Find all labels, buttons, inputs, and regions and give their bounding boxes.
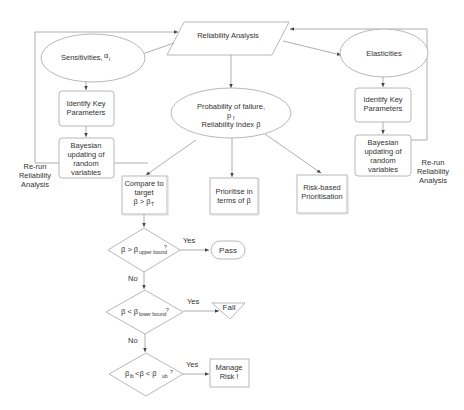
- svg-text:Risk !: Risk !: [220, 372, 239, 381]
- svg-text:Compare to: Compare to: [124, 179, 163, 188]
- probability-of-failure-node: Probability of failure, p f Reliability …: [171, 88, 291, 138]
- yes-label: Yes: [187, 297, 199, 306]
- svg-text:Pass: Pass: [219, 246, 237, 255]
- svg-text:Reliability: Reliability: [417, 167, 449, 176]
- svg-text:Analysis: Analysis: [419, 176, 447, 185]
- right-bayesian-updating: Bayesian updating of random variables: [355, 135, 411, 176]
- elasticities-node: Elasticities: [340, 29, 428, 77]
- svg-text:Identify Key: Identify Key: [363, 95, 402, 104]
- sensitivities-node: Sensitivities, α i: [41, 34, 145, 82]
- svg-text:Manage: Manage: [215, 363, 242, 372]
- bayes-line1: Bayesian: [71, 141, 102, 150]
- bayes-line4: variables: [71, 168, 101, 177]
- pass-terminal: Pass: [211, 241, 245, 259]
- svg-text:β < β: β < β: [121, 307, 139, 316]
- bayes-line3: random: [73, 159, 98, 168]
- svg-text:Probability of failure,: Probability of failure,: [197, 102, 265, 111]
- sensitivities-label: Sensitivities,: [61, 53, 103, 62]
- svg-text:Reliability Index β: Reliability Index β: [202, 120, 262, 129]
- compare-to-target-node: Compare to target β > β T: [122, 176, 168, 215]
- svg-text:?: ?: [170, 369, 173, 375]
- left-identify-key-parameters: Identify Key Parameters: [59, 91, 114, 126]
- svg-text:Fail: Fail: [223, 303, 236, 312]
- right-identify-key-parameters: Identify Key Parameters: [355, 88, 411, 122]
- svg-text:lower bound: lower bound: [139, 311, 166, 317]
- svg-text:Bayesian: Bayesian: [368, 138, 399, 147]
- svg-text:Analysis: Analysis: [21, 180, 49, 189]
- svg-text:lb: lb: [130, 373, 134, 379]
- svg-text:?: ?: [164, 244, 167, 250]
- svg-text:β > β: β > β: [133, 197, 151, 206]
- bayes-line2: updating of: [67, 150, 105, 159]
- svg-text:p: p: [227, 111, 231, 120]
- no-label: No: [128, 336, 138, 345]
- prioritise-node: Prioritise in terms of β: [210, 178, 259, 215]
- manage-risk-node: Manage Risk !: [210, 359, 249, 387]
- svg-text:Reliability: Reliability: [19, 171, 51, 180]
- no-label: No: [128, 274, 138, 283]
- decision-between-bounds: β lb <β < β ub ?: [109, 353, 183, 396]
- decision-upper-bound: β > β upper bound ?: [108, 228, 180, 272]
- alpha-subscript: i: [109, 56, 110, 62]
- elasticities-label: Elasticities: [366, 49, 402, 58]
- yes-label: Yes: [183, 236, 195, 245]
- svg-text:<β < β: <β < β: [135, 369, 157, 378]
- decision-lower-bound: β < β lower bound ?: [106, 290, 183, 334]
- svg-text:random: random: [370, 156, 395, 165]
- reliability-analysis-node: Reliability Analysis: [167, 22, 289, 55]
- svg-text:updating of: updating of: [364, 147, 402, 156]
- left-bayesian-updating: Bayesian updating of random variables: [59, 138, 114, 178]
- svg-text:target: target: [134, 188, 154, 197]
- svg-text:ub: ub: [162, 373, 168, 379]
- svg-text:terms of β: terms of β: [217, 196, 251, 205]
- svg-text:Risk-based: Risk-based: [303, 183, 341, 192]
- svg-text:β > β: β > β: [121, 245, 139, 254]
- risk-based-prioritisation-node: Risk-based Prioritisation: [297, 175, 348, 214]
- left-rerun-label: Re-run Reliability Analysis: [19, 162, 51, 189]
- yes-label: Yes: [186, 360, 198, 369]
- svg-text:Prioritise in: Prioritise in: [215, 187, 252, 196]
- svg-text:Parameters: Parameters: [364, 104, 403, 113]
- svg-text:Re-run: Re-run: [422, 158, 445, 167]
- identify-line1: Identify Key: [66, 99, 105, 108]
- svg-text:?: ?: [166, 307, 169, 313]
- right-rerun-label: Re-run Reliability Analysis: [417, 158, 449, 185]
- svg-text:variables: variables: [368, 165, 398, 174]
- reliability-analysis-label: Reliability Analysis: [197, 31, 259, 40]
- identify-line2: Parameters: [67, 108, 106, 117]
- svg-text:T: T: [151, 201, 154, 207]
- svg-text:Prioritisation: Prioritisation: [301, 192, 342, 201]
- reliability-flowchart: Reliability Analysis Sensitivities, α i …: [0, 0, 464, 410]
- svg-text:Re-run: Re-run: [24, 162, 47, 171]
